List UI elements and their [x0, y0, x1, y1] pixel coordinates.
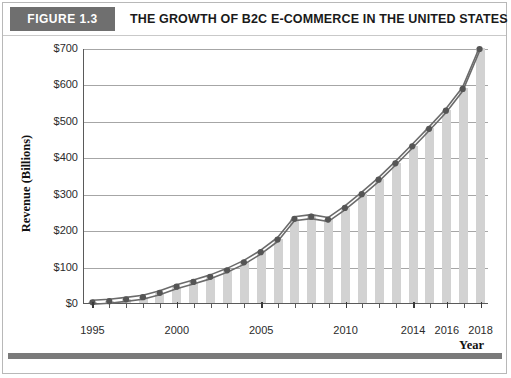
y-axis-tick-labels: $700$600$500$400$300$200$100$0: [33, 49, 78, 304]
y-axis-tick-label: $200: [54, 224, 78, 236]
data-point-marker: [409, 143, 415, 149]
y-axis-label: Revenue (Billions): [19, 109, 34, 259]
data-point-marker: [308, 214, 314, 220]
x-axis-tick: [413, 302, 415, 308]
x-axis-tick-label: 2005: [241, 324, 281, 336]
x-axis-tick: [244, 304, 245, 308]
x-axis-tick-label: 1995: [72, 324, 112, 336]
chart-body: Revenue (Billions) $700$600$500$400$300$…: [3, 36, 508, 351]
series-line: [92, 47, 479, 300]
figure-number-label: FIGURE 1.3: [27, 12, 97, 26]
x-axis-tick: [227, 304, 228, 308]
data-point-marker: [173, 284, 179, 290]
line-series-svg: [84, 49, 488, 303]
y-axis-tick-label: $700: [54, 42, 78, 54]
figure-title-container: THE GROWTH OF B2C E-COMMERCE IN THE UNIT…: [115, 7, 499, 31]
figure-header: FIGURE 1.3 THE GROWTH OF B2C E-COMMERCE …: [3, 3, 506, 35]
x-axis-tick: [447, 302, 449, 308]
data-point-marker: [476, 46, 482, 52]
x-axis-tick: [278, 304, 279, 308]
bottom-accent-band: [8, 353, 502, 359]
data-point-marker: [258, 249, 264, 255]
data-point-marker: [392, 160, 398, 166]
x-axis-tick: [329, 304, 330, 308]
x-axis-tick: [379, 304, 380, 308]
x-axis-label: Year: [459, 338, 484, 353]
data-point-marker: [140, 294, 146, 300]
y-axis-tick-label: $500: [54, 115, 78, 127]
x-axis-tick: [160, 304, 161, 308]
x-axis-tick: [396, 304, 397, 308]
series-line: [92, 51, 479, 304]
x-axis-tick-label: 2018: [461, 324, 501, 336]
x-axis-tick-label: 2000: [157, 324, 197, 336]
y-axis-tick-label: $300: [54, 188, 78, 200]
x-axis-tick: [346, 302, 348, 308]
data-point-marker: [359, 191, 365, 197]
y-axis-tick-label: $100: [54, 261, 78, 273]
x-axis-tick: [92, 302, 94, 308]
data-point-marker: [274, 236, 280, 242]
data-point-marker: [224, 267, 230, 273]
x-axis-tick: [464, 304, 465, 308]
figure-card: FIGURE 1.3 THE GROWTH OF B2C E-COMMERCE …: [2, 2, 507, 374]
x-axis-tick: [312, 304, 313, 308]
x-axis-tick: [295, 304, 296, 308]
x-axis-tick: [362, 304, 363, 308]
data-point-marker: [460, 86, 466, 92]
data-point-marker: [207, 274, 213, 280]
x-axis-tick: [177, 302, 179, 308]
plot-area: 1995200020052010201420162018: [83, 49, 488, 304]
figure-title: THE GROWTH OF B2C E-COMMERCE IN THE UNIT…: [115, 12, 508, 26]
y-axis-tick-label: $0: [66, 297, 78, 309]
data-point-marker: [426, 126, 432, 132]
data-point-marker: [190, 279, 196, 285]
data-point-marker: [291, 216, 297, 222]
x-axis-tick: [126, 304, 127, 308]
y-axis-tick-label: $400: [54, 151, 78, 163]
data-point-marker: [342, 205, 348, 211]
x-axis-tick-label: 2010: [326, 324, 366, 336]
y-axis-tick-label: $600: [54, 78, 78, 90]
x-axis-tick: [211, 304, 212, 308]
x-axis-tick: [143, 304, 144, 308]
x-axis-tick: [261, 302, 263, 308]
figure-number-tab: FIGURE 1.3: [10, 7, 115, 31]
x-axis-tick: [194, 304, 195, 308]
data-point-marker: [443, 108, 449, 114]
x-axis-tick: [109, 304, 110, 308]
data-point-marker: [375, 177, 381, 183]
data-point-marker: [325, 216, 331, 222]
x-axis-tick: [430, 304, 431, 308]
data-point-marker: [241, 259, 247, 265]
x-axis-tick: [481, 302, 483, 308]
data-point-marker: [123, 296, 129, 302]
data-point-marker: [157, 290, 163, 296]
